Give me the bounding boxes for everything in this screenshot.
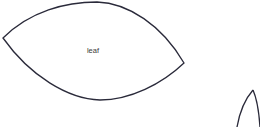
leaf-partial-top-arc[interactable] [237, 90, 253, 127]
diagram-canvas: leaf [0, 0, 260, 127]
diagram-svg: leaf [0, 0, 260, 127]
leaf-partial-bottom-arc[interactable] [253, 90, 260, 127]
leaf-shape-label: leaf [87, 46, 100, 55]
